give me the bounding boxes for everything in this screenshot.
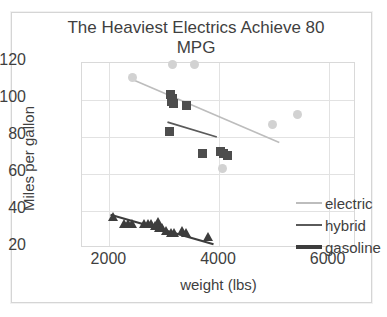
data-point-gasoline — [203, 232, 213, 241]
y-axis-tick-label: 20 — [0, 236, 26, 254]
data-point-hybrid — [182, 101, 191, 110]
legend-label-gasoline: gasoline — [325, 239, 381, 256]
y-axis-tick-label: 40 — [0, 199, 26, 217]
chart-title: The Heaviest Electrics Achieve 80 MPG — [46, 18, 346, 58]
legend: electric hybrid gasoline — [296, 192, 387, 258]
legend-label-electric: electric — [325, 195, 373, 212]
legend-label-hybrid: hybrid — [325, 217, 366, 234]
legend-item-electric[interactable]: electric — [296, 192, 387, 214]
data-point-hybrid — [223, 151, 232, 160]
data-point-gasoline — [127, 219, 137, 228]
data-point-electric — [218, 164, 227, 173]
data-point-hybrid — [165, 127, 174, 136]
legend-swatch-gasoline-icon — [296, 245, 322, 249]
data-point-gasoline — [108, 212, 118, 221]
legend-item-hybrid[interactable]: hybrid — [296, 214, 387, 236]
scatter-chart: The Heaviest Electrics Achieve 80 MPG Mi… — [0, 0, 387, 317]
y-axis-tick-label: 100 — [0, 88, 26, 106]
x-axis-title: weight (lbs) — [81, 276, 356, 293]
x-axis-tick-label: 2000 — [73, 250, 143, 268]
x-axis-tick-label: 4000 — [183, 250, 253, 268]
data-point-gasoline — [181, 228, 191, 237]
trendline-hybrid — [167, 122, 216, 137]
chart-title-line-1: The Heaviest Electrics Achieve 80 — [67, 18, 324, 37]
data-point-electric — [268, 120, 277, 129]
chart-title-line-2: MPG — [46, 38, 346, 58]
legend-item-gasoline[interactable]: gasoline — [296, 236, 387, 258]
legend-swatch-hybrid-icon — [296, 224, 322, 226]
data-point-hybrid — [198, 149, 207, 158]
y-axis-tick-label: 120 — [0, 51, 26, 69]
y-axis-tick-label: 60 — [0, 162, 26, 180]
legend-swatch-electric-icon — [296, 202, 322, 204]
y-axis-tick-label: 80 — [0, 125, 26, 143]
data-point-hybrid — [169, 99, 178, 108]
